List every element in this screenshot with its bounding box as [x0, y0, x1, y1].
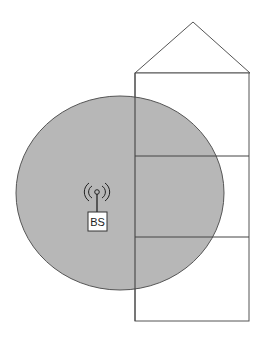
base-station-label: BS: [90, 216, 105, 228]
coverage-diagram: BS: [0, 0, 262, 338]
building-roof: [135, 22, 250, 73]
base-station: BS: [88, 212, 107, 231]
coverage-area: [16, 96, 224, 290]
